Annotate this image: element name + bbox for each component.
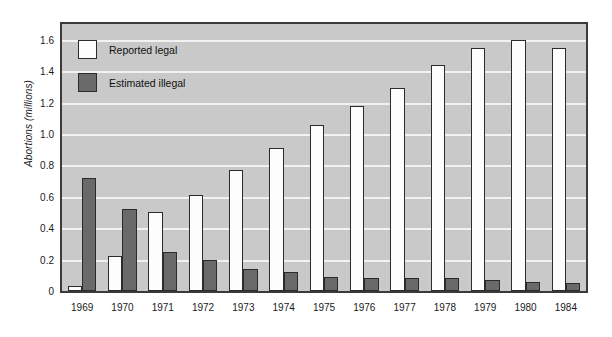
x-tick-label: 1979 (474, 302, 496, 313)
bar-group (546, 24, 586, 291)
bar-reported-legal (471, 48, 485, 291)
legend-swatch-reported-legal (78, 40, 97, 59)
bar-group (304, 24, 344, 291)
bar-estimated-illegal (405, 278, 419, 291)
y-tick-label: 1.6 (16, 34, 54, 45)
bar-estimated-illegal (243, 269, 257, 291)
bar-reported-legal (269, 148, 283, 291)
bar-estimated-illegal (122, 209, 136, 291)
chart-legend: Reported legalEstimated illegal (78, 40, 185, 106)
chart-figure: Abortions (millions) 00.20.40.60.81.01.2… (0, 0, 612, 337)
y-tick-label: 1.4 (16, 66, 54, 77)
bar-reported-legal (310, 125, 324, 291)
legend-label: Estimated illegal (109, 77, 185, 89)
bar-reported-legal (552, 48, 566, 291)
bar-reported-legal (350, 106, 364, 291)
bar-group (465, 24, 505, 291)
bar-reported-legal (189, 195, 203, 291)
y-tick-label: 1.2 (16, 97, 54, 108)
y-tick-label: 1.0 (16, 128, 54, 139)
legend-item: Reported legal (78, 40, 185, 59)
bar-group (384, 24, 424, 291)
bar-reported-legal (68, 286, 82, 291)
y-tick-label: 0 (16, 286, 54, 297)
bar-estimated-illegal (445, 278, 459, 291)
x-tick-label: 1969 (71, 302, 93, 313)
bar-estimated-illegal (364, 278, 378, 291)
bar-estimated-illegal (566, 283, 580, 291)
x-tick-label: 1974 (273, 302, 295, 313)
bar-reported-legal (108, 256, 122, 291)
bar-estimated-illegal (324, 277, 338, 291)
legend-item: Estimated illegal (78, 73, 185, 92)
bar-estimated-illegal (203, 260, 217, 291)
y-tick-label: 0.2 (16, 254, 54, 265)
plot-area: Reported legalEstimated illegal (60, 22, 588, 293)
bar-reported-legal (511, 40, 525, 291)
bar-group (344, 24, 384, 291)
x-tick-label: 1976 (353, 302, 375, 313)
bar-reported-legal (390, 88, 404, 291)
bar-group (183, 24, 223, 291)
legend-swatch-estimated-illegal (78, 73, 97, 92)
bar-group (264, 24, 304, 291)
bar-estimated-illegal (82, 178, 96, 291)
x-tick-label: 1971 (152, 302, 174, 313)
y-tick-label: 0.4 (16, 223, 54, 234)
y-tick-label: 0.8 (16, 160, 54, 171)
bar-estimated-illegal (526, 282, 540, 291)
x-tick-label: 1975 (313, 302, 335, 313)
y-tick-label: 0.6 (16, 191, 54, 202)
x-tick-label: 1980 (514, 302, 536, 313)
bar-reported-legal (431, 65, 445, 291)
legend-label: Reported legal (109, 44, 177, 56)
x-tick-label: 1977 (393, 302, 415, 313)
bar-group (425, 24, 465, 291)
bar-reported-legal (229, 170, 243, 291)
x-tick-label: 1978 (434, 302, 456, 313)
x-tick-label: 1972 (192, 302, 214, 313)
bar-reported-legal (148, 212, 162, 291)
x-tick-label: 1973 (232, 302, 254, 313)
bar-estimated-illegal (485, 280, 499, 291)
x-tick-label: 1970 (111, 302, 133, 313)
x-tick-label: 1984 (555, 302, 577, 313)
bar-group (505, 24, 545, 291)
bar-group (223, 24, 263, 291)
bar-estimated-illegal (163, 252, 177, 291)
bar-estimated-illegal (284, 272, 298, 291)
